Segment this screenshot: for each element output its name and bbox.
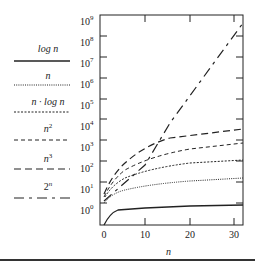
series-curves <box>104 23 243 225</box>
xtick-label: 30 <box>224 229 244 240</box>
legend-label-n-cubed: n3 <box>16 152 80 164</box>
ytick-label: 100 <box>80 204 100 216</box>
legend-label-n-squared: n2 <box>16 122 80 134</box>
ytick-label: 108 <box>80 36 100 48</box>
ytick-label: 107 <box>80 57 100 69</box>
chart-graphics <box>0 0 255 269</box>
legend-label-2-pow-n: 2n <box>16 180 80 192</box>
ytick-label: 106 <box>80 78 100 90</box>
legend-label-n-log-n: n · log n <box>16 96 80 107</box>
ytick-label: 102 <box>80 162 100 174</box>
bottom-divider <box>0 259 255 261</box>
legend-label-n: n <box>16 70 80 81</box>
ytick-label: 109 <box>80 15 100 27</box>
ytick-label: 105 <box>80 99 100 111</box>
xtick-label: 20 <box>180 229 200 240</box>
xtick-label: 10 <box>135 229 155 240</box>
ytick-label: 104 <box>80 120 100 132</box>
ytick-label: 103 <box>80 141 100 153</box>
x-axis-label: n <box>166 246 171 257</box>
ytick-label: 101 <box>80 183 100 195</box>
xtick-label: 0 <box>94 229 114 240</box>
legend-label-log-n: log n <box>16 43 80 54</box>
